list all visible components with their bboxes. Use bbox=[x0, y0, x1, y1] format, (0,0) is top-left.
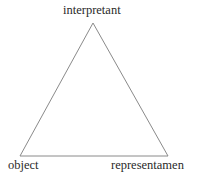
triangle-outline bbox=[20, 23, 168, 156]
triangle-shape bbox=[0, 0, 197, 183]
semiotic-triangle-diagram: interpretant object representamen bbox=[0, 0, 197, 183]
object-label: object bbox=[8, 159, 39, 172]
interpretant-label: interpretant bbox=[63, 4, 121, 17]
representamen-label: representamen bbox=[111, 159, 184, 172]
